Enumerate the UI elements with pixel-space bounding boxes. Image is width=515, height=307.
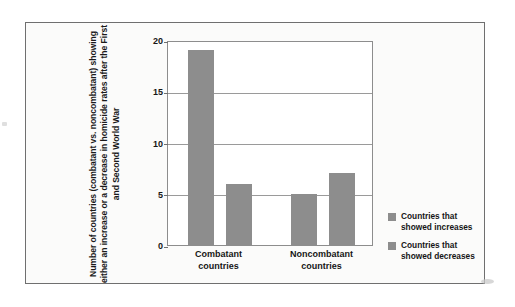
y-axis-tick-mark: [164, 247, 168, 248]
legend-entry: Countries that showed decreases: [388, 240, 484, 262]
plot-area: [167, 41, 373, 246]
bars-layer: [168, 42, 372, 245]
y-axis-tick-label: 15: [153, 87, 163, 97]
y-axis-tick-label: 0: [158, 241, 163, 251]
x-axis-category-label: Combatantcountries: [195, 249, 242, 272]
legend-label: Countries that showed decreases: [401, 240, 475, 262]
y-axis-tick-label: 20: [153, 36, 163, 46]
bar: [226, 184, 252, 246]
bar: [291, 194, 317, 245]
legend-swatch: [388, 213, 396, 221]
y-axis-tick-label: 5: [158, 190, 163, 200]
legend-swatch: [388, 242, 396, 250]
y-axis-tick-label: 10: [153, 139, 163, 149]
figure-frame: Number of countries (combatant vs. nonco…: [25, 22, 485, 284]
chart-legend: Countries that showed increasesCountries…: [388, 211, 484, 269]
x-axis-category-labels: CombatantcountriesNoncombatantcountries: [167, 249, 373, 283]
plot-wrapper: 05101520 CombatantcountriesNoncombatantc…: [141, 41, 373, 271]
bar: [188, 50, 214, 245]
scan-artifact-smudge: [481, 279, 494, 284]
x-axis-category-label: Noncombatantcountries: [290, 249, 353, 272]
y-axis-tick-labels: 05101520: [141, 41, 163, 246]
y-axis-title: Number of countries (combatant vs. nonco…: [62, 23, 148, 285]
scan-artifact-edge-mark: [2, 122, 7, 126]
legend-entry: Countries that showed increases: [388, 211, 484, 233]
legend-label: Countries that showed increases: [401, 211, 472, 233]
bar: [329, 173, 355, 245]
